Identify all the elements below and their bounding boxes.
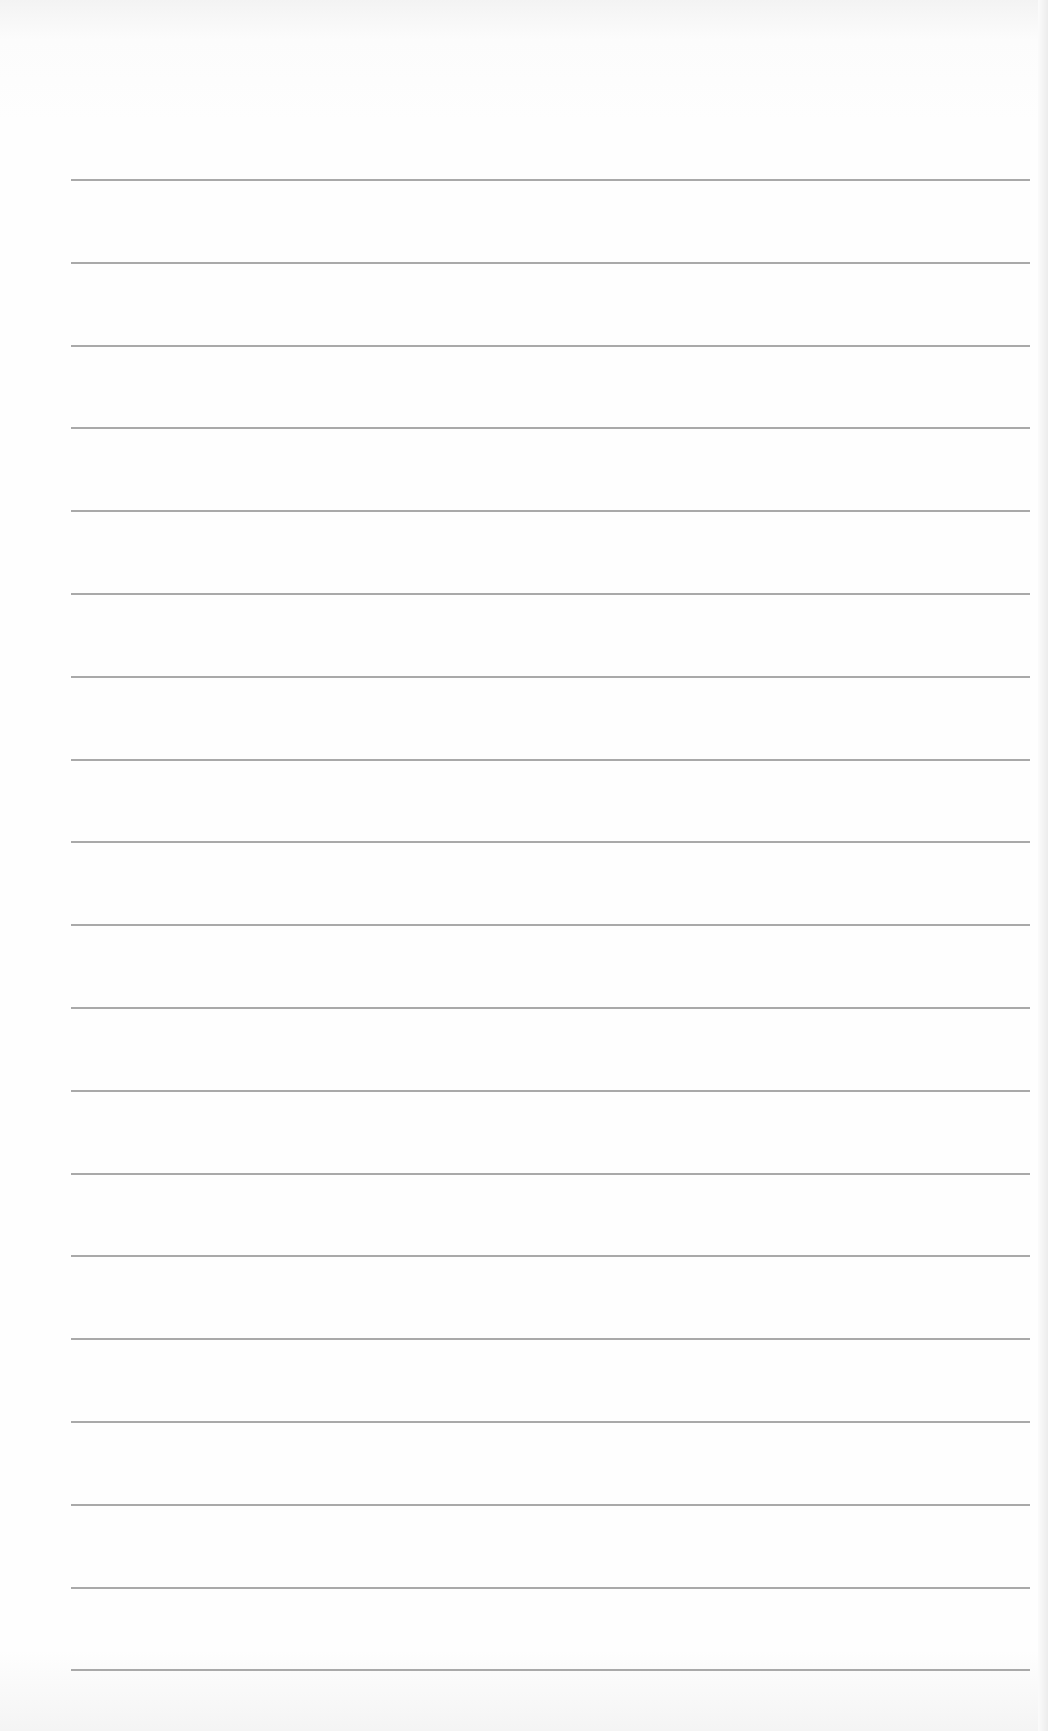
ruled-line xyxy=(71,1338,1030,1340)
page-edge-shadow xyxy=(1038,0,1048,1731)
ruled-line xyxy=(71,1504,1030,1506)
ruled-line xyxy=(71,1587,1030,1589)
ruled-line xyxy=(71,759,1030,761)
lined-paper-page xyxy=(0,0,1048,1731)
ruled-line xyxy=(71,1669,1030,1671)
ruled-line xyxy=(71,1007,1030,1009)
ruled-line xyxy=(71,1090,1030,1092)
ruled-line xyxy=(71,510,1030,512)
ruled-line xyxy=(71,1173,1030,1175)
ruled-line xyxy=(71,1421,1030,1423)
ruled-line xyxy=(71,924,1030,926)
ruled-line xyxy=(71,593,1030,595)
ruled-line xyxy=(71,841,1030,843)
ruled-line xyxy=(71,345,1030,347)
ruled-line xyxy=(71,427,1030,429)
ruled-line xyxy=(71,179,1030,181)
ruled-line xyxy=(71,262,1030,264)
ruled-line xyxy=(71,1255,1030,1257)
ruled-line xyxy=(71,676,1030,678)
